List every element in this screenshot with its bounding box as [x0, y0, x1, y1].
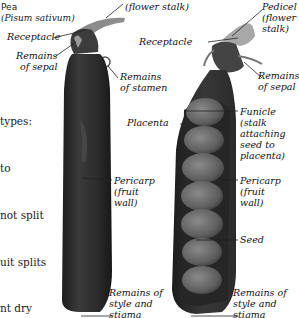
left-pod — [62, 18, 125, 312]
body-line: not split — [0, 208, 46, 224]
label-right-style-stigma: Remains of style and stigma — [233, 287, 287, 318]
label-right-receptacle: Receptacle — [139, 36, 192, 47]
body-line: to — [0, 161, 46, 177]
label-right-remains-of-sepal: Remains of sepal — [258, 70, 299, 92]
label-funicle: Funicle (stalk attaching seed to placent… — [240, 106, 286, 161]
specimen-title: Pea (Pisum sativum) — [1, 2, 75, 24]
body-line: uit splits — [0, 255, 46, 271]
label-left-style-stigma: Remains of style and stigma — [109, 287, 163, 318]
label-placenta: Placenta — [127, 117, 169, 128]
body-line: nt dry — [0, 301, 46, 317]
scientific-name: (Pisum sativum) — [1, 13, 75, 24]
label-left-pedicel: (flower stalk) — [125, 1, 189, 12]
body-line: types: — [0, 114, 46, 130]
right-pod — [172, 23, 262, 314]
label-right-pedicel: Pedicel (flower stalk) — [262, 1, 297, 34]
label-left-pericarp: Pericarp (fruit wall) — [114, 175, 155, 208]
common-name: Pea — [1, 2, 75, 13]
label-left-receptacle: Receptacle — [7, 31, 60, 42]
label-left-remains-of-sepal: Remains of sepal — [16, 50, 57, 72]
label-left-remains-of-stamen: Remains of stamen — [120, 71, 167, 93]
label-seed: Seed — [240, 234, 264, 245]
label-right-pericarp: Pericarp (fruit wall) — [240, 175, 281, 208]
body-text-column: types: to not split uit splits nt dry le… — [0, 83, 46, 318]
